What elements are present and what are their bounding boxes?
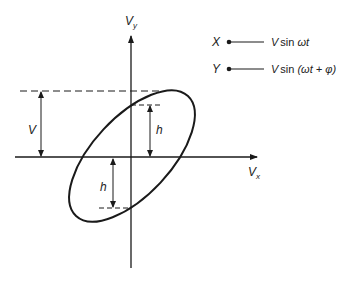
lissajous-ellipse	[48, 69, 217, 242]
y-axis: Vy	[125, 14, 138, 268]
lower-intercept-dimension: h	[99, 159, 131, 208]
y-axis-label: Vy	[125, 14, 138, 30]
amplitude-dimension: V	[28, 92, 41, 156]
x-axis: Vx	[15, 157, 261, 181]
signal-legend: X Vsinωt Y Vsin(ωt + φ)	[211, 35, 336, 76]
lissajous-phase-diagram: Vy Vx V h h X Vsinωt Y	[0, 0, 346, 286]
x-axis-label: Vx	[248, 165, 261, 181]
legend-signal-x: Vsinωt	[271, 36, 310, 48]
legend-channel-x: X	[211, 35, 221, 49]
amplitude-label: V	[28, 123, 37, 137]
legend-signal-y: Vsin(ωt + φ)	[271, 63, 336, 75]
lower-h-label: h	[100, 180, 107, 194]
upper-intercept-dimension: h	[131, 105, 163, 156]
upper-h-label: h	[156, 123, 163, 137]
legend-channel-y: Y	[212, 62, 221, 76]
legend-item-x: X Vsinωt	[211, 35, 310, 49]
legend-item-y: Y Vsin(ωt + φ)	[212, 62, 336, 76]
